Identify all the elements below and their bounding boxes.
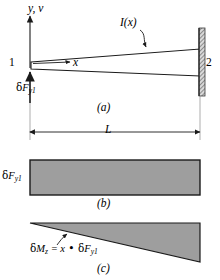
inertia-function-label: I(x): [120, 17, 137, 29]
multiply-dot: •: [65, 242, 78, 254]
equals-sign: =: [48, 243, 60, 254]
shear-diagram-rect: [30, 160, 200, 195]
caption-panel-b: (b): [97, 198, 110, 210]
x-axis-label: x: [73, 57, 78, 69]
caption-panel-c: (c): [97, 263, 110, 275]
shear-value-label: δFy1: [2, 170, 22, 182]
inertia-leader-arrow: [140, 30, 146, 47]
node-2-label: 2: [206, 57, 212, 69]
moment-symbol: M: [36, 243, 45, 254]
force-subscript: y1: [91, 247, 98, 256]
virtual-force-label: δFy1: [16, 82, 36, 94]
length-label: L: [105, 124, 111, 136]
fixed-wall-hatch: [199, 28, 205, 96]
beam-figure: y, v I(x) x 1 2 δFy1 (a) L δFy1 (b) δMz …: [0, 0, 220, 280]
caption-panel-a: (a): [97, 102, 110, 114]
y-axis-label: y, v: [28, 3, 43, 15]
force-subscript: y1: [15, 174, 22, 183]
node-1-label: 1: [9, 57, 15, 69]
figure-vector-layer: [0, 0, 220, 280]
moment-equation-label: δMz = x • δFy1: [30, 243, 98, 255]
force-subscript: y1: [29, 86, 36, 95]
